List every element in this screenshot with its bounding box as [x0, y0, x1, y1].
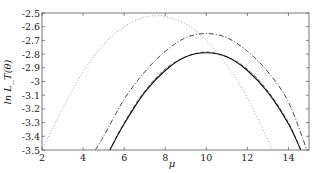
y-tick-label: -2.8	[22, 49, 40, 60]
chart: 2468101214 -2.5-2.6-2.7-2.8-2.9-3-3.1-3.…	[0, 0, 317, 173]
y-tick-label: -3.3	[22, 117, 40, 128]
x-tick-label: 14	[282, 152, 294, 163]
curve-dotted	[42, 16, 272, 150]
y-tick-label: -3.5	[22, 145, 40, 156]
curve-solid	[110, 53, 301, 150]
x-tick-label: 12	[241, 152, 253, 163]
x-axis-label: μ	[169, 158, 176, 169]
y-tick-label: -3.4	[22, 131, 40, 142]
x-axis-ticks: 2468101214	[39, 13, 295, 163]
y-axis-ticks: -2.5-2.6-2.7-2.8-2.9-3-3.1-3.2-3.3-3.4-3…	[22, 8, 309, 156]
x-tick-label: 10	[200, 152, 212, 163]
y-tick-label: -2.5	[22, 8, 40, 19]
plot-frame	[42, 13, 309, 150]
x-tick-label: 8	[162, 152, 168, 163]
plot-curves	[42, 16, 307, 150]
x-tick-label: 4	[80, 152, 86, 163]
y-tick-label: -3	[31, 76, 40, 87]
x-tick-label: 6	[121, 152, 127, 163]
y-tick-label: -2.6	[22, 21, 40, 32]
y-axis-label: ln L_T(θ)	[2, 59, 14, 104]
y-tick-label: -2.7	[22, 35, 40, 46]
curve-dash-dot	[95, 34, 307, 150]
y-tick-label: -3.2	[22, 103, 40, 114]
y-tick-label: -2.9	[22, 62, 40, 73]
y-tick-label: -3.1	[22, 90, 40, 101]
